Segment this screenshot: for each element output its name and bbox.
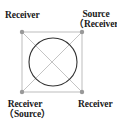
label-bottom-right: Receiver (78, 99, 113, 109)
label-bottom-left: Receiver （Source） (4, 99, 46, 119)
specimen-circle (29, 38, 77, 86)
label-top-left: Receiver (5, 10, 40, 20)
label-bottom-right-line1: Receiver (78, 99, 113, 109)
label-top-left-line1: Receiver (5, 10, 40, 20)
label-top-right: Source （Receiver） (74, 9, 117, 29)
node-bottom-right-icon (80, 90, 84, 94)
node-top-right-icon (80, 30, 84, 34)
node-top-left-icon (20, 30, 24, 34)
label-top-right-line2: （Receiver） (74, 19, 117, 29)
node-bottom-left-icon (20, 90, 24, 94)
label-bottom-left-line2: （Source） (4, 109, 46, 119)
label-top-right-line1: Source (74, 9, 117, 19)
label-bottom-left-line1: Receiver (4, 99, 46, 109)
